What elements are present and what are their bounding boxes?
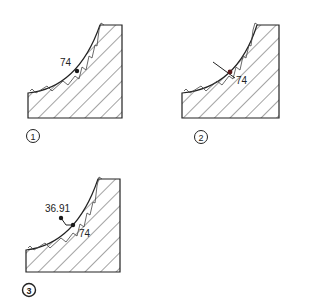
svg-text:3: 3 — [26, 286, 31, 296]
svg-text:2: 2 — [198, 133, 203, 143]
contact-point — [71, 223, 75, 227]
step-number-3: 3 — [23, 284, 36, 297]
panel-3: 36.91 74 3 — [23, 177, 121, 297]
panel-2: 74 2 — [182, 23, 279, 144]
secondary-label: 36.91 — [45, 203, 70, 214]
step-number-1: 1 — [27, 130, 40, 143]
offset-point — [59, 216, 63, 220]
contact-point — [75, 69, 79, 73]
step-number-2: 2 — [195, 131, 208, 144]
dimension-label: 74 — [60, 57, 72, 68]
dimension-label: 74 — [79, 228, 91, 239]
svg-text:1: 1 — [30, 132, 35, 142]
panel-1: 74 1 — [27, 23, 123, 143]
contact-point — [228, 70, 233, 75]
dimension-label: 74 — [236, 75, 248, 86]
